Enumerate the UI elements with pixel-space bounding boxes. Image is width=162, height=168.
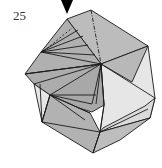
origami-model — [0, 0, 162, 168]
push-down-arrow-icon — [61, 0, 73, 14]
